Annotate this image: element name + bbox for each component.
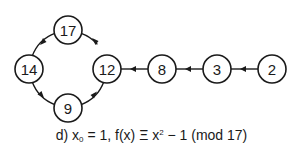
figure-caption: d) x0 = 1, f(x) Ξ x2 − 1 (mod 17) xyxy=(0,127,303,144)
edge-17-to-14 xyxy=(32,33,55,56)
svg-text:12: 12 xyxy=(99,61,116,78)
node-17: 17 xyxy=(54,16,82,44)
caption-suffix: − 1 (mod 17) xyxy=(164,127,248,143)
arrowhead-icon xyxy=(130,66,136,72)
svg-text:3: 3 xyxy=(213,61,221,78)
node-14: 14 xyxy=(15,55,43,83)
node-3: 3 xyxy=(203,55,231,83)
caption-middle: = 1, f(x) Ξ x xyxy=(84,127,160,143)
arrowhead-icon xyxy=(185,66,191,72)
edge-9-to-12 xyxy=(81,82,104,105)
caption-prefix: d) x xyxy=(56,127,79,143)
svg-text:2: 2 xyxy=(268,61,276,78)
svg-text:9: 9 xyxy=(64,100,72,117)
edge-14-to-9 xyxy=(32,82,55,105)
arrowhead-icon xyxy=(240,66,246,72)
node-12: 12 xyxy=(93,55,121,83)
node-8: 8 xyxy=(148,55,176,83)
node-9: 9 xyxy=(54,94,82,122)
svg-text:17: 17 xyxy=(60,22,77,39)
svg-text:14: 14 xyxy=(21,61,38,78)
svg-text:8: 8 xyxy=(158,61,166,78)
node-2: 2 xyxy=(258,55,286,83)
